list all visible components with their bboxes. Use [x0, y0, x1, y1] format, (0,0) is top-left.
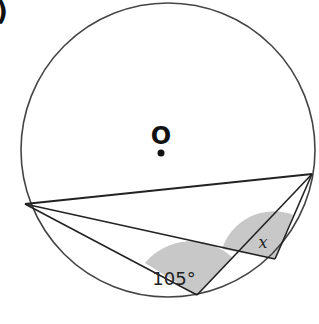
circle-diagram: O 105° x ): [0, 0, 319, 324]
angle-label-x: x: [258, 233, 267, 252]
corner-mark: ): [0, 0, 8, 26]
center-label: O: [151, 122, 171, 150]
center-point: [158, 150, 165, 157]
chord-BC: [197, 174, 312, 295]
chord-AB: [25, 174, 312, 204]
angle-label-105: 105°: [152, 268, 195, 289]
